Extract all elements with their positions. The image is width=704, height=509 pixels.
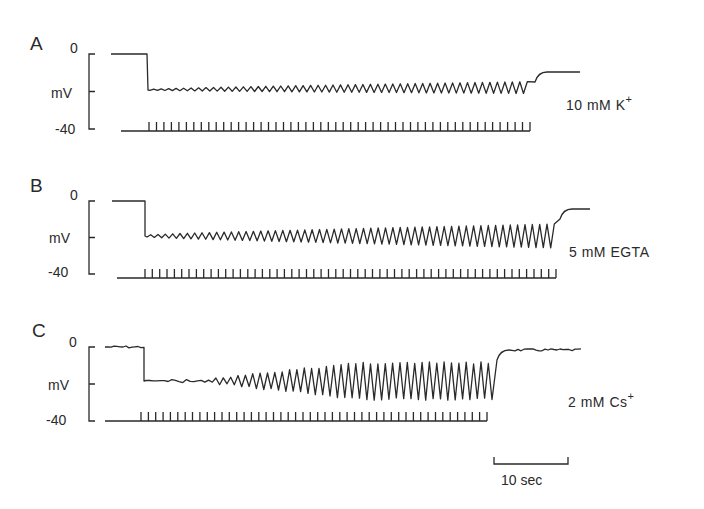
y-unit-b: mV: [49, 230, 71, 246]
panel-label-a: A: [30, 33, 43, 54]
y-tick-zero-c: 0: [69, 334, 77, 350]
y-tick-minus40-a: -40: [55, 121, 75, 137]
panel-a: A 0 mV -40 10 mM K+: [30, 33, 632, 137]
condition-label-b: 5 mM EGTA: [569, 244, 650, 260]
y-tick-minus40-b: -40: [48, 264, 68, 280]
y-axis-bracket-a: [89, 54, 95, 129]
scale-bar-line: [494, 457, 568, 464]
voltage-trace-b: [112, 201, 590, 248]
y-axis-bracket-b: [89, 201, 95, 274]
time-scale-bar: 10 sec: [494, 457, 568, 488]
stimulus-train-b: [117, 269, 556, 278]
y-axis-bracket-c: [89, 347, 95, 421]
y-tick-zero-b: 0: [70, 187, 78, 203]
scale-bar-label: 10 sec: [501, 472, 542, 488]
voltage-trace-c: [105, 346, 581, 400]
condition-label-c: 2 mM Cs+: [568, 390, 634, 410]
y-unit-a: mV: [51, 85, 73, 101]
panel-b: B 0 mV -40 5 mM EGTA: [30, 175, 650, 280]
panel-label-c: C: [32, 320, 46, 341]
y-tick-minus40-c: -40: [46, 412, 66, 428]
stimulus-train-a: [121, 122, 530, 131]
electrophysiology-figure: A 0 mV -40 10 mM K+ B 0 mV -40 5 mM EGTA…: [0, 0, 704, 509]
condition-label-a: 10 mM K+: [566, 93, 632, 113]
panel-c: C 0 mV -40 2 mM Cs+: [32, 320, 634, 428]
stimulus-train-c: [105, 412, 487, 421]
voltage-trace-a: [111, 54, 580, 94]
y-unit-c: mV: [48, 377, 70, 393]
y-tick-zero-a: 0: [70, 40, 78, 56]
panel-label-b: B: [30, 175, 43, 196]
